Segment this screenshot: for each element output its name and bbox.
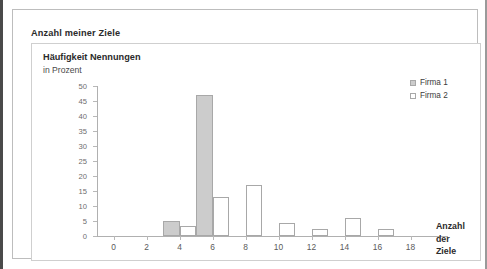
x-axis-title-line-3: Ziele [436,245,465,258]
x-tick-label: 14 [340,242,349,252]
y-tick: 30 [93,146,97,147]
x-tick-label: 6 [210,242,215,252]
x-tick [345,236,346,240]
y-tick: 25 [93,161,97,162]
y-tick: 5 [93,221,97,222]
x-tick-label: 4 [177,242,182,252]
x-tick [246,236,247,240]
y-axis-title: Häufigkeit Nennungen [43,52,141,62]
y-tick-label: 25 [79,157,87,166]
x-tick-label: 18 [406,242,415,252]
x-tick [312,236,313,240]
page-title: Anzahl meiner Ziele [31,28,120,38]
bar-firma-2-x10 [279,223,296,236]
x-tick [378,236,379,240]
x-tick [114,236,115,240]
y-tick: 35 [93,131,97,132]
y-tick-label: 5 [83,217,87,226]
y-tick-label: 45 [79,97,87,106]
x-tick-label: 2 [144,242,149,252]
x-tick-label: 8 [243,242,248,252]
x-tick-label: 16 [373,242,382,252]
bar-firma-2-x14 [345,218,362,236]
bar-firma-2-x16 [378,229,395,237]
legend-swatch-icon [410,80,416,86]
bar-firma-1-x6 [196,95,213,236]
x-axis-title-line-1: Anzahl [436,220,465,233]
y-tick-label: 0 [83,232,87,241]
x-axis-title-line-2: der [436,233,465,246]
y-tick: 40 [93,116,97,117]
bar-firma-2-x12 [312,229,329,237]
y-tick: 15 [93,191,97,192]
y-tick-label: 15 [79,187,87,196]
x-tick [411,236,412,240]
y-axis-line [97,86,98,236]
x-axis-line [97,236,448,237]
x-tick-label: 10 [274,242,283,252]
bar-firma-2-x4 [180,226,197,237]
y-axis-subtitle: in Prozent [43,65,82,75]
bar-firma-2-x6 [213,197,230,236]
x-tick [213,236,214,240]
x-tick-label: 0 [111,242,116,252]
y-tick-label: 10 [79,202,87,211]
page-frame: Anzahl meiner Ziele Häufigkeit Nennungen… [0,0,487,269]
y-tick-label: 20 [79,172,87,181]
x-tick-label: 12 [307,242,316,252]
y-tick-label: 35 [79,127,87,136]
bar-firma-2-x8 [246,185,263,236]
y-tick: 0 [93,236,97,237]
y-tick: 10 [93,206,97,207]
y-tick: 50 [93,86,97,87]
outer-container: Anzahl meiner Ziele Häufigkeit Nennungen… [12,9,478,259]
y-tick-label: 50 [79,82,87,91]
y-tick-label: 30 [79,142,87,151]
x-axis-title: AnzahlderZiele [436,220,465,258]
chart-panel: Häufigkeit Nennungen in Prozent Firma 1F… [31,43,481,261]
y-tick: 20 [93,176,97,177]
x-tick [279,236,280,240]
y-tick: 45 [93,101,97,102]
bar-firma-1-x4 [163,221,180,236]
y-tick-label: 40 [79,112,87,121]
x-tick [147,236,148,240]
plot-area: 05101520253035404550 024681012141618 [97,86,427,236]
x-tick [180,236,181,240]
